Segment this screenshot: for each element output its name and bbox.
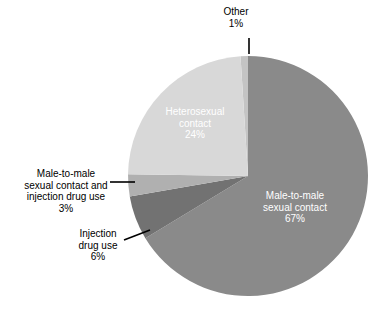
pie-label-mmsc-idu-percent: 3% bbox=[4, 203, 128, 215]
pie-label-heterosexual-contact: Heterosexual contact 24% bbox=[152, 106, 238, 141]
pie-chart-figure: Other 1% Heterosexual contact 24% Male-t… bbox=[0, 0, 391, 317]
pie-label-male-to-male-sexual-contact-and-injection-drug-use: Male-to-male sexual contact and injectio… bbox=[4, 168, 128, 214]
pie-label-male-to-male-sexual-contact: Male-to-male sexual contact 67% bbox=[243, 190, 347, 225]
pie-label-injection-drug-use: Injection drug use 6% bbox=[52, 228, 144, 263]
pie-chart-canvas bbox=[0, 0, 391, 317]
pie-label-other-percent: 1% bbox=[196, 18, 276, 30]
pie-label-male-to-male-sexual-contact-line1: Male-to-male bbox=[243, 190, 347, 202]
pie-label-male-to-male-sexual-contact-line2: sexual contact bbox=[243, 202, 347, 214]
pie-label-injection-drug-use-line2: drug use bbox=[52, 240, 144, 252]
pie-label-other-text: Other bbox=[196, 6, 276, 18]
pie-label-heterosexual-contact-line2: contact bbox=[152, 118, 238, 130]
pie-label-injection-drug-use-percent: 6% bbox=[52, 251, 144, 263]
pie-label-heterosexual-contact-line1: Heterosexual bbox=[152, 106, 238, 118]
pie-label-mmsc-idu-line3: injection drug use bbox=[4, 191, 128, 203]
pie-label-other: Other 1% bbox=[196, 6, 276, 29]
pie-label-mmsc-idu-line1: Male-to-male bbox=[4, 168, 128, 180]
pie-label-mmsc-idu-line2: sexual contact and bbox=[4, 180, 128, 192]
pie-label-male-to-male-sexual-contact-percent: 67% bbox=[243, 213, 347, 225]
pie-label-heterosexual-contact-percent: 24% bbox=[152, 129, 238, 141]
pie-label-injection-drug-use-line1: Injection bbox=[52, 228, 144, 240]
